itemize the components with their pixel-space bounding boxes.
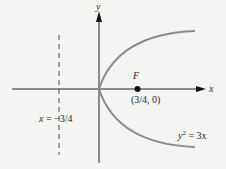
focus-label: F — [133, 71, 139, 81]
curve-label-exponent: 2 — [182, 129, 186, 137]
directrix-label: x = −3/4 — [39, 114, 73, 124]
curve-label-rest: = 3x — [188, 130, 206, 141]
curve-equation-label: y2 = 3x — [178, 131, 207, 141]
y-axis-label: y — [96, 2, 100, 12]
x-axis-label: x — [209, 84, 213, 94]
parabola-diagram: y x F (3/4, 0) x = −3/4 y2 = 3x — [0, 0, 226, 169]
directrix-label-eq: = — [46, 113, 52, 124]
y-axis-arrow-icon — [96, 11, 102, 22]
directrix-label-rhs: −3/4 — [54, 113, 72, 124]
focus-coordinates: (3/4, 0) — [131, 95, 160, 105]
x-axis-arrow-icon — [196, 86, 206, 92]
focus-point — [135, 86, 141, 92]
diagram-canvas — [0, 0, 226, 169]
directrix-label-lhs: x — [39, 113, 43, 124]
